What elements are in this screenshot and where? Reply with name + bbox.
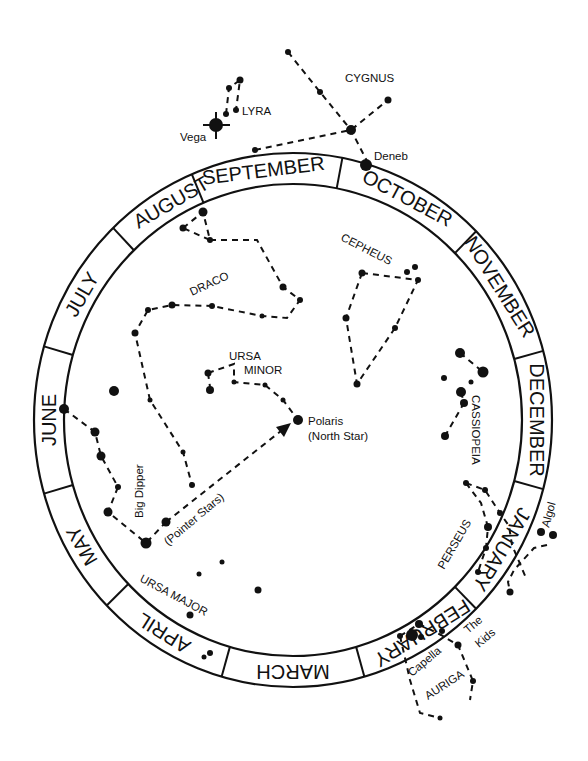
star-icon bbox=[169, 302, 176, 309]
label-perseus: PERSEUS bbox=[435, 517, 473, 571]
label-deneb: Deneb bbox=[374, 150, 408, 162]
label-cygnus: CYGNUS bbox=[345, 72, 395, 84]
star-icon bbox=[197, 572, 202, 577]
star-icon bbox=[297, 297, 303, 303]
star-icon bbox=[549, 531, 557, 539]
star-icon bbox=[202, 655, 207, 660]
star-icon bbox=[199, 208, 208, 217]
label-auriga: AURIGA bbox=[423, 667, 467, 701]
star-icon bbox=[439, 628, 445, 634]
star-chart: SEPTEMBEROCTOBERNOVEMBERDECEMBERJANUARYF… bbox=[0, 0, 588, 761]
star-icon bbox=[418, 634, 424, 640]
month-label-november: NOVEMBER bbox=[460, 232, 539, 341]
pointer-arrowhead-icon bbox=[276, 423, 291, 437]
constellation-line-draco bbox=[183, 212, 210, 240]
star-icon bbox=[232, 380, 237, 385]
star-icon bbox=[162, 518, 171, 527]
star-icon bbox=[484, 523, 492, 531]
star-icon bbox=[281, 398, 286, 403]
label-cassiopeia: CASSIOPEIA bbox=[470, 395, 482, 465]
constellation-line-pointer-arrow bbox=[166, 427, 286, 522]
star-icon bbox=[397, 633, 403, 639]
star-icon bbox=[343, 315, 350, 322]
label-big-dipper: Big Dipper bbox=[133, 464, 145, 518]
star-icon bbox=[507, 589, 514, 596]
label-ursa-major: URSA MAJOR bbox=[138, 572, 210, 618]
star-icon bbox=[187, 612, 194, 619]
star-icon bbox=[226, 85, 232, 91]
star-icon bbox=[415, 277, 421, 283]
star-icon bbox=[354, 381, 361, 388]
label-cepheus: CEPHEUS bbox=[339, 231, 394, 267]
star-icon bbox=[109, 386, 119, 396]
star-icon bbox=[207, 237, 213, 243]
star-icon bbox=[406, 629, 418, 641]
month-divider bbox=[356, 647, 364, 677]
month-divider bbox=[44, 346, 73, 355]
label-polaris: Polaris bbox=[308, 415, 343, 427]
constellation-line-cepheus bbox=[346, 273, 418, 384]
star-icon bbox=[441, 375, 447, 381]
star-icon bbox=[205, 370, 212, 377]
month-label-december: DECEMBER bbox=[526, 363, 548, 476]
star-icon bbox=[141, 538, 152, 549]
star-icon bbox=[59, 404, 69, 414]
month-divider bbox=[514, 481, 543, 489]
month-label-march: MARCH bbox=[256, 661, 329, 683]
star-icon bbox=[97, 452, 106, 461]
star-icon bbox=[220, 560, 225, 565]
star-icon bbox=[412, 264, 418, 270]
constellation-line-cygnus bbox=[255, 100, 388, 150]
label-ursa-minor-2: MINOR bbox=[244, 364, 282, 376]
star-icon bbox=[482, 487, 488, 493]
label-north-star: (North Star) bbox=[308, 430, 368, 442]
star-icon bbox=[233, 107, 239, 113]
star-icon bbox=[237, 77, 244, 84]
star-icon bbox=[469, 380, 474, 385]
month-divider bbox=[107, 584, 129, 606]
star-icon bbox=[209, 303, 215, 309]
label-draco: DRACO bbox=[188, 269, 231, 297]
star-icon bbox=[181, 450, 186, 455]
label-ursa-minor-1: URSA bbox=[229, 350, 261, 362]
star-icon bbox=[404, 269, 410, 275]
star-icon bbox=[455, 642, 462, 649]
star-icon bbox=[252, 147, 258, 153]
star-icon bbox=[293, 415, 303, 425]
star-icon bbox=[460, 399, 468, 407]
month-divider bbox=[44, 485, 73, 494]
month-divider bbox=[222, 647, 230, 677]
star-icon bbox=[189, 482, 195, 488]
star-icon bbox=[456, 387, 466, 397]
star-icon bbox=[470, 678, 476, 684]
star-icon bbox=[260, 314, 265, 319]
month-label-may: MAY bbox=[62, 522, 102, 569]
star-icon bbox=[455, 348, 465, 358]
star-icon bbox=[132, 330, 139, 337]
star-icon bbox=[537, 528, 545, 536]
star-icon bbox=[206, 386, 214, 394]
month-label-september: SEPTEMBER bbox=[201, 152, 326, 189]
star-icon bbox=[223, 111, 229, 117]
star-icon bbox=[483, 545, 489, 551]
label-lyra: LYRA bbox=[242, 105, 272, 117]
star-icon bbox=[497, 510, 503, 516]
star-icon bbox=[415, 620, 423, 628]
star-icon bbox=[91, 428, 100, 437]
star-icon bbox=[478, 367, 489, 378]
label-vega: Vega bbox=[180, 131, 207, 143]
star-icon bbox=[280, 284, 287, 291]
star-icon bbox=[317, 89, 323, 95]
star-icon bbox=[346, 125, 356, 135]
month-divider bbox=[337, 158, 343, 188]
month-divider bbox=[514, 351, 543, 359]
constellation-line-cygnus bbox=[288, 52, 368, 163]
star-icon bbox=[392, 325, 398, 331]
star-icon bbox=[285, 49, 291, 55]
month-label-july: JULY bbox=[60, 268, 103, 320]
month-divider bbox=[113, 228, 134, 250]
star-icon bbox=[463, 480, 469, 486]
star-icon bbox=[207, 650, 213, 656]
star-icon bbox=[475, 569, 481, 575]
star-icon bbox=[255, 587, 262, 594]
